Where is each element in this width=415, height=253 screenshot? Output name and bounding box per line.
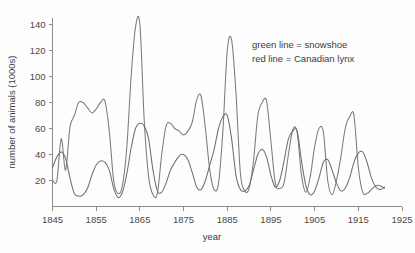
x-tick-label: 1915 bbox=[348, 214, 369, 225]
y-axis-ticks: 20406080100120140 bbox=[30, 19, 53, 186]
chart-figure: 20406080100120140 1845185518651875188518… bbox=[0, 0, 415, 253]
y-tick-label: 100 bbox=[30, 71, 46, 82]
legend-entry-lynx: red line = Canadian lynx bbox=[252, 53, 354, 64]
line-chart: 20406080100120140 1845185518651875188518… bbox=[0, 0, 415, 253]
x-tick-label: 1875 bbox=[173, 214, 194, 225]
x-tick-label: 1925 bbox=[391, 214, 412, 225]
y-tick-label: 80 bbox=[35, 97, 46, 108]
y-tick-label: 140 bbox=[30, 19, 46, 30]
x-axis-title: year bbox=[203, 231, 221, 242]
y-tick-label: 40 bbox=[35, 149, 46, 160]
x-tick-label: 1905 bbox=[304, 214, 325, 225]
x-tick-label: 1895 bbox=[260, 214, 281, 225]
x-tick-label: 1855 bbox=[86, 214, 107, 225]
legend-entry-snowshoe: green line = snowshoe bbox=[252, 39, 347, 50]
y-tick-label: 20 bbox=[35, 175, 46, 186]
y-tick-label: 120 bbox=[30, 45, 46, 56]
y-tick-label: 60 bbox=[35, 123, 46, 134]
x-tick-label: 1865 bbox=[129, 214, 150, 225]
x-axis-ticks: 184518551865187518851895190519151925 bbox=[42, 207, 413, 225]
x-tick-label: 1845 bbox=[42, 214, 63, 225]
x-tick-label: 1885 bbox=[217, 214, 238, 225]
y-axis-title: number of animals (1000s) bbox=[6, 56, 17, 169]
